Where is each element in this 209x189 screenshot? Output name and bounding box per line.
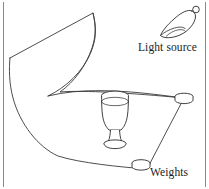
weight-right <box>175 93 193 103</box>
weight-bottom <box>132 160 150 170</box>
lamp-shade <box>161 10 196 37</box>
light-source-lamp <box>161 6 200 37</box>
goblet-bowl <box>102 96 129 130</box>
weight-bottom-body <box>132 163 150 170</box>
weight-right-body <box>175 97 193 104</box>
light-source-label: Light source <box>138 42 197 54</box>
weights-label: Weights <box>150 167 188 179</box>
line-drawing-canvas <box>0 0 209 189</box>
figure-panel: Light source Weights <box>0 0 209 189</box>
lamp-hanger-ring-icon <box>193 6 200 13</box>
